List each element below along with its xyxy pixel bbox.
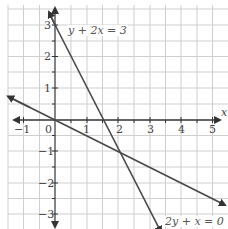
y-tick-label: 3 [44,20,51,31]
x-tick-label: −1 [14,124,30,135]
x-tick-label: 1 [83,124,90,135]
x-tick-label: 5 [209,124,216,135]
y-tick-label: 1 [44,83,51,94]
x-tick-label: 2 [116,124,123,135]
equation-label-1: y + 2x = 3 [67,25,128,36]
x-tick-label: 4 [178,124,185,135]
x-axis-label: x [221,107,227,118]
y-tick-label: −2 [38,178,54,189]
y-tick-label: −3 [38,209,54,220]
y-tick-label: 2 [44,51,51,62]
x-tick-label: 3 [147,124,154,135]
origin-label: 0 [45,124,52,135]
equation-label-2: 2y + x = 0 [164,216,225,227]
line-y-plus-2x-eq-3 [51,17,161,229]
y-tick-label: −1 [38,146,54,157]
